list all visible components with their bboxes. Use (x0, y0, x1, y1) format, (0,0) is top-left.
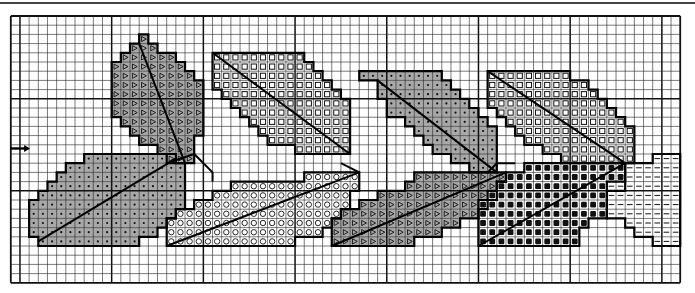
dot-symbol-icon (399, 84, 401, 86)
dot-symbol-icon (409, 84, 411, 86)
dot-symbol-icon (179, 167, 181, 169)
dot-symbol-icon (464, 121, 466, 123)
dot-symbol-icon (133, 185, 135, 187)
dot-symbol-icon (482, 167, 484, 169)
dot-symbol-icon (409, 112, 411, 114)
filled-square-symbol-icon (535, 183, 541, 189)
dot-symbol-icon (143, 213, 145, 215)
filled-square-symbol-icon (544, 174, 550, 180)
dot-symbol-icon (482, 130, 484, 132)
dot-symbol-icon (170, 176, 172, 178)
dot-symbol-icon (106, 176, 108, 178)
dot-symbol-icon (445, 121, 447, 123)
dot-symbol-icon (33, 222, 35, 224)
dot-symbol-icon (106, 240, 108, 242)
dot-symbol-icon (491, 158, 493, 160)
dot-symbol-icon (436, 93, 438, 95)
filled-square-symbol-icon (590, 202, 596, 208)
dot-symbol-icon (143, 231, 145, 233)
dot-symbol-icon (88, 204, 90, 206)
dot-symbol-icon (473, 121, 475, 123)
filled-square-symbol-icon (563, 174, 569, 180)
filled-square-symbol-icon (563, 165, 569, 171)
filled-square-symbol-icon (517, 202, 523, 208)
dot-symbol-icon (124, 194, 126, 196)
dot-symbol-icon (436, 84, 438, 86)
dot-symbol-icon (418, 121, 420, 123)
dot-symbol-icon (124, 222, 126, 224)
dot-symbol-icon (97, 231, 99, 233)
filled-square-symbol-icon (517, 229, 523, 235)
filled-square-symbol-icon (517, 211, 523, 217)
dot-symbol-icon (170, 213, 172, 215)
dot-symbol-icon (115, 176, 117, 178)
filled-square-symbol-icon (526, 174, 532, 180)
dot-symbol-icon (152, 158, 154, 160)
filled-square-symbol-icon (535, 220, 541, 226)
dot-symbol-icon (161, 194, 163, 196)
dot-symbol-icon (143, 222, 145, 224)
dot-symbol-icon (133, 176, 135, 178)
dot-symbol-icon (78, 185, 80, 187)
dot-symbol-icon (42, 213, 44, 215)
dot-symbol-icon (124, 158, 126, 160)
filled-square-symbol-icon (572, 229, 578, 235)
filled-square-symbol-icon (498, 211, 504, 217)
dot-symbol-icon (42, 204, 44, 206)
dot-symbol-icon (445, 102, 447, 104)
dot-symbol-icon (78, 240, 80, 242)
dot-symbol-icon (33, 231, 35, 233)
dot-symbol-icon (51, 204, 53, 206)
filled-square-symbol-icon (526, 165, 532, 171)
filled-square-symbol-icon (498, 193, 504, 199)
filled-square-symbol-icon (489, 229, 495, 235)
dot-symbol-icon (106, 204, 108, 206)
filled-square-symbol-icon (554, 165, 560, 171)
dot-symbol-icon (133, 222, 135, 224)
dot-symbol-icon (115, 167, 117, 169)
dot-symbol-icon (88, 231, 90, 233)
dot-symbol-icon (51, 222, 53, 224)
dot-symbol-icon (124, 204, 126, 206)
filled-square-symbol-icon (498, 220, 504, 226)
dot-symbol-icon (106, 231, 108, 233)
dot-symbol-icon (133, 167, 135, 169)
dot-symbol-icon (427, 93, 429, 95)
filled-square-symbol-icon (590, 211, 596, 217)
dot-symbol-icon (454, 102, 456, 104)
dot-symbol-icon (399, 112, 401, 114)
dot-symbol-icon (133, 240, 135, 242)
dot-symbol-icon (115, 204, 117, 206)
dot-symbol-icon (427, 75, 429, 77)
filled-square-symbol-icon (599, 183, 605, 189)
filled-square-symbol-icon (489, 202, 495, 208)
dot-symbol-icon (170, 185, 172, 187)
dot-symbol-icon (88, 222, 90, 224)
dot-symbol-icon (143, 185, 145, 187)
dot-symbol-icon (436, 130, 438, 132)
filled-square-symbol-icon (508, 202, 514, 208)
dot-symbol-icon (60, 204, 62, 206)
dot-symbol-icon (482, 139, 484, 141)
dot-symbol-icon (78, 213, 80, 215)
dot-symbol-icon (115, 231, 117, 233)
dot-symbol-icon (161, 176, 163, 178)
dot-symbol-icon (51, 185, 53, 187)
dot-symbol-icon (399, 93, 401, 95)
dot-symbol-icon (161, 185, 163, 187)
filled-square-symbol-icon (554, 193, 560, 199)
dot-symbol-icon (491, 139, 493, 141)
filled-square-symbol-icon (563, 202, 569, 208)
filled-square-symbol-icon (563, 220, 569, 226)
dot-symbol-icon (124, 167, 126, 169)
dot-symbol-icon (133, 204, 135, 206)
dot-symbol-icon (51, 194, 53, 196)
filled-square-symbol-icon (599, 202, 605, 208)
dot-symbol-icon (464, 102, 466, 104)
filled-square-symbol-icon (544, 239, 550, 245)
dot-symbol-icon (482, 148, 484, 150)
dot-symbol-icon (133, 213, 135, 215)
dot-symbol-icon (88, 185, 90, 187)
dot-symbol-icon (399, 102, 401, 104)
filled-square-symbol-icon (535, 174, 541, 180)
